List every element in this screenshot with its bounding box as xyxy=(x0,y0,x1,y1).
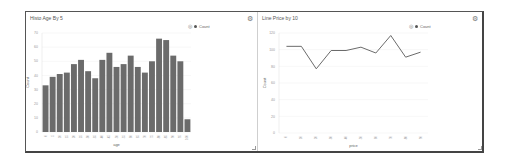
x-tick-label: 85 xyxy=(164,135,168,139)
x-axis-label: price xyxy=(349,143,358,148)
bar[interactable] xyxy=(43,85,49,132)
bar-chart: 010203040506070Countage05101520253035404… xyxy=(26,12,258,154)
x-tick-label: 45 xyxy=(107,135,111,139)
x-tick-label: 5 xyxy=(51,135,55,137)
x-tick-label: 0 xyxy=(284,136,288,138)
x-tick-label: 70 xyxy=(389,136,393,140)
y-tick-label: 0 xyxy=(273,131,275,135)
y-tick-label: 100 xyxy=(269,48,275,52)
x-tick-label: 15 xyxy=(65,135,69,139)
line-chart: 020406080100120Countprice010203040506070… xyxy=(258,12,483,154)
y-tick-label: 10 xyxy=(34,116,38,120)
bar[interactable] xyxy=(50,77,56,132)
x-tick-label: 70 xyxy=(143,135,147,139)
x-tick-label: 60 xyxy=(374,136,378,140)
x-tick-label: 0 xyxy=(44,135,48,137)
y-tick-label: 30 xyxy=(34,88,38,92)
bar[interactable] xyxy=(114,67,120,132)
histogram-panel: Histo Age By 5 ⚙ ◎ Count 010203040506070… xyxy=(26,12,258,151)
x-tick-label: 95 xyxy=(178,135,182,139)
y-tick-label: 60 xyxy=(34,45,38,49)
x-tick-label: 30 xyxy=(86,135,90,139)
x-tick-label: 25 xyxy=(79,135,83,139)
bar[interactable] xyxy=(163,40,169,132)
y-tick-label: 40 xyxy=(271,98,275,102)
bar[interactable] xyxy=(149,61,155,132)
bar[interactable] xyxy=(135,67,141,132)
bar[interactable] xyxy=(92,78,98,132)
x-tick-label: 50 xyxy=(359,136,363,140)
bar[interactable] xyxy=(64,73,70,132)
bar[interactable] xyxy=(85,71,91,132)
bar[interactable] xyxy=(185,119,191,132)
x-axis-label: age xyxy=(113,142,120,147)
resize-handle[interactable] xyxy=(252,146,256,150)
x-tick-label: 80 xyxy=(404,136,408,140)
x-tick-label: 40 xyxy=(344,136,348,140)
bar[interactable] xyxy=(71,64,77,132)
x-tick-label: 30 xyxy=(329,136,333,140)
x-tick-label: 75 xyxy=(150,135,154,139)
bar[interactable] xyxy=(177,61,183,132)
dashboard-container: Histo Age By 5 ⚙ ◎ Count 010203040506070… xyxy=(25,11,484,153)
x-tick-label: 10 xyxy=(58,135,62,139)
y-axis-label: Count xyxy=(262,77,267,89)
bar[interactable] xyxy=(57,74,63,132)
x-tick-label: 100 xyxy=(185,135,189,140)
bar[interactable] xyxy=(106,53,112,132)
y-tick-label: 20 xyxy=(34,102,38,106)
bar[interactable] xyxy=(156,39,162,132)
x-tick-label: 80 xyxy=(157,135,161,139)
y-tick-label: 0 xyxy=(36,130,38,134)
line-chart-panel: Line Price by 10 ⚙ ◎ Count 0204060801001… xyxy=(258,12,483,151)
x-tick-label: 50 xyxy=(115,135,119,139)
bar[interactable] xyxy=(121,64,127,132)
x-tick-label: 65 xyxy=(136,135,140,139)
y-tick-label: 120 xyxy=(269,31,275,35)
y-tick-label: 80 xyxy=(271,65,275,69)
bar[interactable] xyxy=(142,73,148,132)
resize-handle[interactable] xyxy=(478,146,482,150)
bar[interactable] xyxy=(99,60,105,132)
x-tick-label: 35 xyxy=(93,135,97,139)
y-tick-label: 20 xyxy=(271,115,275,119)
y-axis-label: Count xyxy=(26,76,30,88)
bar[interactable] xyxy=(78,60,84,132)
bar[interactable] xyxy=(170,56,176,132)
x-tick-label: 10 xyxy=(299,136,303,140)
x-tick-label: 20 xyxy=(72,135,76,139)
x-tick-label: 20 xyxy=(314,136,318,140)
bar[interactable] xyxy=(128,56,134,132)
x-tick-label: 90 xyxy=(419,136,423,140)
data-line[interactable] xyxy=(286,36,420,69)
x-tick-label: 55 xyxy=(122,135,126,139)
y-tick-label: 70 xyxy=(34,31,38,35)
x-tick-label: 90 xyxy=(171,135,175,139)
x-tick-label: 40 xyxy=(100,135,104,139)
y-tick-label: 50 xyxy=(34,59,38,63)
y-tick-label: 40 xyxy=(34,74,38,78)
y-tick-label: 60 xyxy=(271,81,275,85)
x-tick-label: 60 xyxy=(129,135,133,139)
